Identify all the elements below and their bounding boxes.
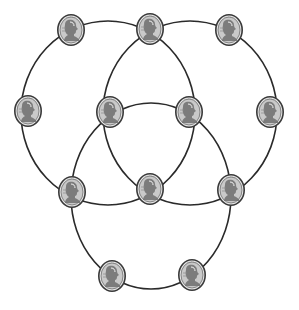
penny-icon (137, 174, 163, 204)
penny-icon (257, 97, 283, 127)
penny-icon (59, 177, 85, 207)
coin-lower-right[interactable] (218, 175, 244, 205)
coin-lower-center[interactable] (137, 174, 163, 204)
coin-middle-inner-left[interactable] (97, 97, 123, 127)
coin-bottom-right[interactable] (179, 260, 205, 290)
coin-bottom-left[interactable] (99, 261, 125, 291)
penny-icon (176, 97, 202, 127)
penny-icon (15, 96, 41, 126)
coin-top-left[interactable] (58, 15, 84, 45)
coin-middle-far-left[interactable] (15, 96, 41, 126)
penny-icon (216, 15, 242, 45)
penny-icon (58, 15, 84, 45)
diagram-canvas (0, 0, 299, 310)
coin-middle-far-right[interactable] (257, 97, 283, 127)
coin-top-middle[interactable] (137, 14, 163, 44)
coin-top-right[interactable] (216, 15, 242, 45)
penny-icon (99, 261, 125, 291)
three-circles-coin-puzzle (0, 0, 299, 310)
penny-icon (179, 260, 205, 290)
coin-middle-inner-right[interactable] (176, 97, 202, 127)
penny-icon (137, 14, 163, 44)
penny-icon (218, 175, 244, 205)
penny-icon (97, 97, 123, 127)
coin-lower-left[interactable] (59, 177, 85, 207)
coins-layer (15, 14, 283, 291)
circles-layer (21, 21, 277, 289)
